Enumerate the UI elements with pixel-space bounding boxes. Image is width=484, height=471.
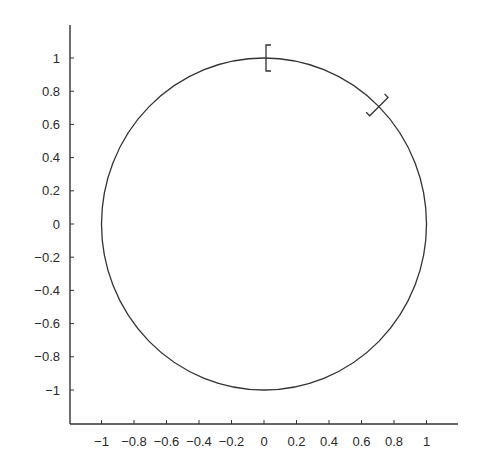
x-tick-label: 0 bbox=[260, 434, 267, 449]
y-tick-label: −0.4 bbox=[34, 283, 60, 298]
x-tick-label: 0.8 bbox=[385, 434, 403, 449]
x-tick-label: 0.4 bbox=[320, 434, 338, 449]
axes bbox=[70, 25, 458, 424]
x-tick-label: 0.2 bbox=[287, 434, 305, 449]
y-tick-label: −0.2 bbox=[34, 250, 60, 265]
y-tick-label: 0.6 bbox=[42, 117, 60, 132]
y-tick-label: −1 bbox=[45, 383, 60, 398]
circle-plot: −1−0.8−0.6−0.4−0.200.20.40.60.81 10.80.6… bbox=[0, 0, 484, 471]
x-tick-label: −1 bbox=[94, 434, 109, 449]
y-tick-label: −0.8 bbox=[34, 349, 60, 364]
x-tick-label: 0.6 bbox=[352, 434, 370, 449]
x-tick-label: −0.4 bbox=[186, 434, 212, 449]
x-tick-label: −0.8 bbox=[121, 434, 147, 449]
y-tick-label: 0 bbox=[53, 217, 60, 232]
y-tick-label: 1 bbox=[53, 51, 60, 66]
y-tick-label: 0.2 bbox=[42, 183, 60, 198]
x-tick-label: 1 bbox=[423, 434, 430, 449]
x-tick-label: −0.2 bbox=[219, 434, 245, 449]
y-tick-label: −0.6 bbox=[34, 316, 60, 331]
y-tick-label: 0.8 bbox=[42, 84, 60, 99]
y-axis-ticks: 10.80.60.40.20−0.2−0.4−0.6−0.8−1 bbox=[34, 51, 74, 398]
y-tick-label: 0.4 bbox=[42, 150, 60, 165]
x-tick-label: −0.6 bbox=[154, 434, 180, 449]
bracket-markers bbox=[266, 45, 388, 116]
